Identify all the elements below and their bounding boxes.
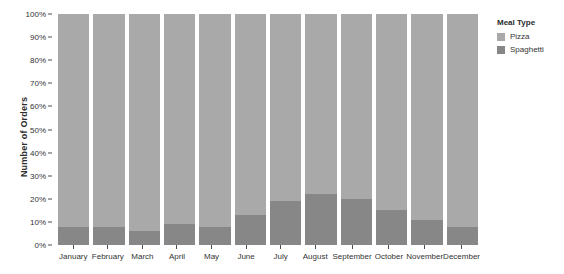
- stacked-bar[interactable]: [305, 14, 336, 245]
- x-axis-tick-mark: [107, 245, 108, 249]
- x-axis-tick: May: [194, 245, 229, 271]
- x-axis-tick-label: November: [406, 252, 443, 261]
- bar-segment-spaghetti[interactable]: [129, 231, 160, 245]
- bar-segment-spaghetti[interactable]: [93, 227, 124, 245]
- stacked-bar[interactable]: [199, 14, 230, 245]
- stacked-bar[interactable]: [58, 14, 89, 245]
- x-axis-tick-mark: [176, 245, 177, 249]
- plot-area: [56, 14, 480, 245]
- bar-segment-pizza[interactable]: [129, 14, 160, 231]
- bar-column[interactable]: [409, 14, 444, 245]
- x-axis-tick-label: March: [131, 252, 153, 261]
- x-axis-tick-mark: [246, 245, 247, 249]
- legend-items: PizzaSpaghetti: [497, 32, 561, 54]
- x-axis-tick-mark: [315, 245, 316, 249]
- legend-swatch-icon: [497, 33, 505, 41]
- y-axis-tick-mark: [48, 14, 52, 15]
- x-axis-tick-label: June: [237, 252, 254, 261]
- x-axis-tick: November: [406, 245, 443, 271]
- bar-column[interactable]: [233, 14, 268, 245]
- y-axis-tick-label: 60%: [30, 102, 46, 111]
- stacked-bar[interactable]: [235, 14, 266, 245]
- bar-column[interactable]: [56, 14, 91, 245]
- stacked-bar[interactable]: [93, 14, 124, 245]
- x-axis-tick: September: [333, 245, 372, 271]
- x-axis-tick-mark: [461, 245, 462, 249]
- x-axis-tick: January: [56, 245, 91, 271]
- bar-column[interactable]: [91, 14, 126, 245]
- stacked-bar[interactable]: [164, 14, 195, 245]
- x-axis-tick: April: [160, 245, 195, 271]
- bar-segment-spaghetti[interactable]: [376, 210, 407, 245]
- stacked-bar[interactable]: [411, 14, 442, 245]
- stacked-bar[interactable]: [341, 14, 372, 245]
- bar-column[interactable]: [127, 14, 162, 245]
- x-axis-tick-label: July: [274, 252, 288, 261]
- bar-column[interactable]: [303, 14, 338, 245]
- bar-segment-spaghetti[interactable]: [447, 227, 478, 245]
- x-axis-tick-label: April: [169, 252, 185, 261]
- bar-segment-spaghetti[interactable]: [341, 199, 372, 245]
- bar-column[interactable]: [268, 14, 303, 245]
- bar-column[interactable]: [374, 14, 409, 245]
- bar-column[interactable]: [445, 14, 480, 245]
- legend-item-label: Pizza: [510, 32, 530, 41]
- bar-column[interactable]: [162, 14, 197, 245]
- x-axis-tick: July: [263, 245, 298, 271]
- bar-segment-spaghetti[interactable]: [270, 201, 301, 245]
- x-axis-tick-label: January: [59, 252, 87, 261]
- legend-item-spaghetti[interactable]: Spaghetti: [497, 45, 561, 54]
- bar-segment-pizza[interactable]: [58, 14, 89, 227]
- y-axis: 100%90%80%70%60%50%40%30%20%10%0%: [22, 14, 52, 245]
- legend-swatch-icon: [497, 46, 505, 54]
- stacked-bar[interactable]: [129, 14, 160, 245]
- x-axis-tick-mark: [73, 245, 74, 249]
- x-axis-tick-label: February: [92, 252, 124, 261]
- bar-segment-pizza[interactable]: [376, 14, 407, 210]
- x-axis-tick-label: December: [443, 252, 480, 261]
- y-axis-tick-mark: [48, 60, 52, 61]
- y-axis-tick-label: 0%: [34, 241, 46, 250]
- bar-segment-pizza[interactable]: [305, 14, 336, 194]
- y-axis-tick-mark: [48, 129, 52, 130]
- x-axis-tick-mark: [280, 245, 281, 249]
- y-axis-tick-mark: [48, 221, 52, 222]
- bar-segment-spaghetti[interactable]: [199, 227, 230, 245]
- y-axis-tick-label: 80%: [30, 56, 46, 65]
- y-axis-tick-label: 40%: [30, 148, 46, 157]
- stacked-bar[interactable]: [376, 14, 407, 245]
- bar-segment-spaghetti[interactable]: [305, 194, 336, 245]
- bar-segment-pizza[interactable]: [199, 14, 230, 227]
- bar-segment-spaghetti[interactable]: [235, 215, 266, 245]
- y-axis-tick-mark: [48, 37, 52, 38]
- x-axis-tick: October: [372, 245, 407, 271]
- x-axis: JanuaryFebruaryMarchAprilMayJuneJulyAugu…: [56, 245, 480, 271]
- x-axis-tick: June: [229, 245, 264, 271]
- bar-segment-pizza[interactable]: [341, 14, 372, 199]
- legend-item-pizza[interactable]: Pizza: [497, 32, 561, 41]
- bar-segment-pizza[interactable]: [447, 14, 478, 227]
- bar-column[interactable]: [197, 14, 232, 245]
- x-axis-tick-mark: [424, 245, 425, 249]
- stacked-bar[interactable]: [270, 14, 301, 245]
- bar-segment-pizza[interactable]: [164, 14, 195, 224]
- x-axis-tick-label: May: [204, 252, 219, 261]
- bar-segment-spaghetti[interactable]: [411, 220, 442, 245]
- x-axis-tick: February: [91, 245, 126, 271]
- y-axis-tick-mark: [48, 198, 52, 199]
- bar-segment-spaghetti[interactable]: [58, 227, 89, 245]
- x-axis-tick-mark: [211, 245, 212, 249]
- y-axis-tick-mark: [48, 106, 52, 107]
- bar-segment-pizza[interactable]: [93, 14, 124, 227]
- stacked-bar[interactable]: [447, 14, 478, 245]
- bar-segment-pizza[interactable]: [411, 14, 442, 220]
- bar-column[interactable]: [339, 14, 374, 245]
- y-axis-tick-label: 90%: [30, 33, 46, 42]
- x-axis-tick-label: October: [375, 252, 403, 261]
- bar-segment-spaghetti[interactable]: [164, 224, 195, 245]
- y-axis-tick-label: 50%: [30, 125, 46, 134]
- legend-item-label: Spaghetti: [510, 45, 544, 54]
- bar-segment-pizza[interactable]: [270, 14, 301, 201]
- bar-segment-pizza[interactable]: [235, 14, 266, 215]
- x-axis-tick: August: [298, 245, 333, 271]
